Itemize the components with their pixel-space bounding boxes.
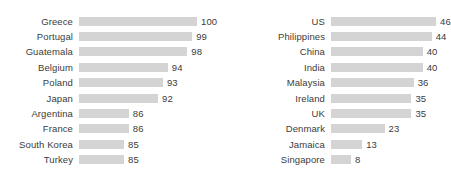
bar-value-label: 23 bbox=[389, 121, 400, 136]
bar bbox=[331, 32, 432, 41]
chart-panel-right: US46Philippines44China40India40Malaysia3… bbox=[215, 0, 431, 174]
bar-value-label: 85 bbox=[128, 152, 139, 167]
bar bbox=[331, 124, 385, 133]
bar-track: 98 bbox=[79, 44, 215, 59]
category-label: Belgium bbox=[0, 60, 73, 75]
bar bbox=[331, 155, 351, 164]
chart-row: Belgium94 bbox=[0, 60, 215, 75]
bar-value-label: 93 bbox=[167, 75, 178, 90]
category-label: Greece bbox=[0, 14, 73, 29]
chart-row: UK35 bbox=[215, 106, 431, 121]
bar-track: 40 bbox=[331, 44, 431, 59]
bar-track: 94 bbox=[79, 60, 215, 75]
bar bbox=[79, 155, 124, 164]
bar-value-label: 92 bbox=[162, 91, 173, 106]
bar-track: 35 bbox=[331, 106, 431, 121]
bar bbox=[331, 63, 423, 72]
category-label: Malaysia bbox=[215, 75, 325, 90]
bar-value-label: 40 bbox=[427, 44, 438, 59]
bar-value-label: 13 bbox=[366, 137, 377, 152]
category-label: Denmark bbox=[215, 121, 325, 136]
bar-track: 44 bbox=[331, 29, 431, 44]
bar bbox=[331, 47, 423, 56]
bar-track: 85 bbox=[79, 152, 215, 167]
category-label: UK bbox=[215, 106, 325, 121]
bar-value-label: 36 bbox=[418, 75, 429, 90]
bar-value-label: 8 bbox=[355, 152, 360, 167]
chart-row: India40 bbox=[215, 60, 431, 75]
bar-value-label: 94 bbox=[172, 60, 183, 75]
chart-row: US46 bbox=[215, 14, 431, 29]
chart-row: Poland93 bbox=[0, 75, 215, 90]
bar-value-label: 85 bbox=[128, 137, 139, 152]
bar bbox=[79, 140, 124, 149]
category-label: South Korea bbox=[0, 137, 73, 152]
bar bbox=[79, 32, 192, 41]
chart-row: Japan92 bbox=[0, 91, 215, 106]
bar bbox=[331, 78, 414, 87]
bar-value-label: 86 bbox=[133, 106, 144, 121]
bar-value-label: 35 bbox=[415, 91, 426, 106]
bar-track: 35 bbox=[331, 91, 431, 106]
bar-track: 92 bbox=[79, 91, 215, 106]
category-label: Portugal bbox=[0, 29, 73, 44]
chart-row: Malaysia36 bbox=[215, 75, 431, 90]
bar bbox=[331, 94, 411, 103]
chart-row: Portugal99 bbox=[0, 29, 215, 44]
bar-value-label: 98 bbox=[191, 44, 202, 59]
bar-value-label: 35 bbox=[415, 106, 426, 121]
chart-row: France86 bbox=[0, 121, 215, 136]
category-label: Philippines bbox=[215, 29, 325, 44]
category-label: Turkey bbox=[0, 152, 73, 167]
category-label: Argentina bbox=[0, 106, 73, 121]
category-label: Poland bbox=[0, 75, 73, 90]
category-label: US bbox=[215, 14, 325, 29]
category-label: Ireland bbox=[215, 91, 325, 106]
category-label: India bbox=[215, 60, 325, 75]
chart-row: Jamaica13 bbox=[215, 137, 431, 152]
bar bbox=[331, 17, 436, 26]
chart-row: Singapore8 bbox=[215, 152, 431, 167]
bar bbox=[331, 109, 411, 118]
bar-track: 86 bbox=[79, 106, 215, 121]
bar-track: 40 bbox=[331, 60, 431, 75]
chart-row: Philippines44 bbox=[215, 29, 431, 44]
bar bbox=[79, 94, 158, 103]
category-label: Jamaica bbox=[215, 137, 325, 152]
bar bbox=[79, 124, 129, 133]
chart-row: Turkey85 bbox=[0, 152, 215, 167]
chart-row: Guatemala98 bbox=[0, 44, 215, 59]
category-label: Guatemala bbox=[0, 44, 73, 59]
bar-value-label: 44 bbox=[436, 29, 447, 44]
category-label: Japan bbox=[0, 91, 73, 106]
bar-value-label: 99 bbox=[196, 29, 207, 44]
chart-row: Ireland35 bbox=[215, 91, 431, 106]
bar bbox=[79, 17, 197, 26]
category-label: France bbox=[0, 121, 73, 136]
chart-row: Denmark23 bbox=[215, 121, 431, 136]
bar-track: 85 bbox=[79, 137, 215, 152]
bar-track: 100 bbox=[79, 14, 215, 29]
chart-row: Greece100 bbox=[0, 14, 215, 29]
bar bbox=[331, 140, 362, 149]
chart-row: South Korea85 bbox=[0, 137, 215, 152]
bar bbox=[79, 47, 187, 56]
bar-track: 93 bbox=[79, 75, 215, 90]
bar-track: 8 bbox=[331, 152, 431, 167]
category-label: Singapore bbox=[215, 152, 325, 167]
bar-track: 46 bbox=[331, 14, 431, 29]
bar bbox=[79, 63, 168, 72]
bar bbox=[79, 109, 129, 118]
bar-track: 36 bbox=[331, 75, 431, 90]
bar-value-label: 86 bbox=[133, 121, 144, 136]
bar-value-label: 40 bbox=[427, 60, 438, 75]
chart-row: Argentina86 bbox=[0, 106, 215, 121]
bar-track: 13 bbox=[331, 137, 431, 152]
bar bbox=[79, 78, 163, 87]
chart-row: China40 bbox=[215, 44, 431, 59]
category-label: China bbox=[215, 44, 325, 59]
chart-panel-left: Greece100Portugal99Guatemala98Belgium94P… bbox=[0, 0, 215, 174]
bar-track: 99 bbox=[79, 29, 215, 44]
bar-track: 86 bbox=[79, 121, 215, 136]
